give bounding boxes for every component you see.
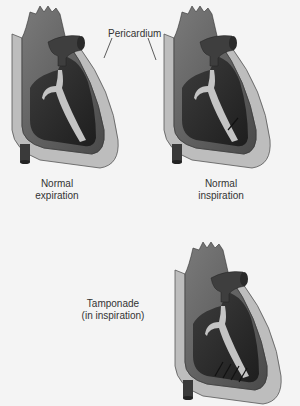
label-line: Normal bbox=[186, 178, 256, 190]
label-line: Normal bbox=[22, 178, 92, 190]
label-normal-inspiration: Normal inspiration bbox=[186, 178, 256, 202]
label-line: (in inspiration) bbox=[68, 310, 158, 322]
heart-normal-inspiration bbox=[152, 0, 282, 170]
label-line: expiration bbox=[22, 190, 92, 202]
label-line: inspiration bbox=[186, 190, 256, 202]
heart-tamponade bbox=[160, 236, 296, 406]
heart-normal-expiration bbox=[0, 0, 130, 170]
label-line: Tamponade bbox=[68, 298, 158, 310]
callout-leader-line bbox=[100, 36, 160, 66]
label-normal-expiration: Normal expiration bbox=[22, 178, 92, 202]
label-tamponade: Tamponade (in inspiration) bbox=[68, 298, 158, 322]
